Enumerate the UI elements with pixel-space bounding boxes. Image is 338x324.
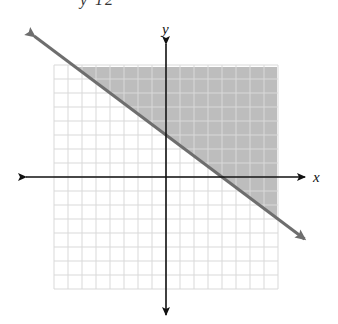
- x-axis-label: x: [312, 169, 320, 185]
- y-axis-label: y: [160, 21, 169, 37]
- inequality-graph: x y: [0, 0, 338, 324]
